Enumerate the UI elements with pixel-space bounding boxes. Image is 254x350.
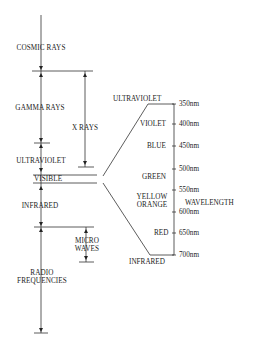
tick-700nm: 700nm [179,251,199,259]
color-red: RED [154,229,168,237]
band-microwaves: MICRO WAVES [70,237,104,253]
band-radio-line2: FREQUENCIES [12,277,72,285]
color-orange: ORANGE [132,201,172,209]
band-visible: VISIBLE [30,175,66,183]
band-infrared: INFRARED [10,202,70,210]
band-ultraviolet: ULTRAVIOLET [6,157,76,165]
band-microwaves-line2: WAVES [70,245,104,253]
band-gamma-rays: GAMMA RAYS [10,104,70,112]
tick-600nm: 600nm [179,208,199,216]
color-yellow: YELLOW [132,193,172,201]
band-x-rays: X RAYS [66,124,104,132]
band-radio-frequencies: RADIO FREQUENCIES [12,269,72,285]
tick-450nm: 450nm [179,142,199,150]
color-violet: VIOLET [140,120,166,128]
band-microwaves-line1: MICRO [70,237,104,245]
band-radio-line1: RADIO [12,269,72,277]
color-blue: BLUE [147,142,166,150]
tick-350nm: 350nm [179,100,199,108]
tick-500nm: 500nm [179,165,199,173]
detail-infrared-label: INFRARED [129,258,165,266]
detail-ultraviolet-label: ULTRAVIOLET [113,95,161,103]
tick-650nm: 650nm [179,229,199,237]
color-yellow-orange: YELLOW ORANGE [132,193,172,209]
tick-550nm: 550nm [179,186,199,194]
band-cosmic-rays: COSMIC RAYS [12,44,70,52]
color-green: GREEN [142,173,166,181]
tick-400nm: 400nm [179,120,199,128]
wavelength-axis-label: WAVELENGTH [185,199,234,207]
